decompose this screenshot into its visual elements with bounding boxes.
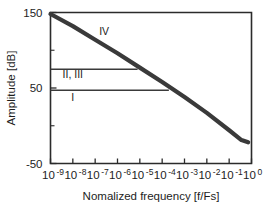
x-tick-label: 10-8 — [64, 167, 86, 181]
x-tick-label: 10-5 — [131, 167, 153, 181]
svg-text:10: 10 — [221, 169, 234, 181]
svg-text:-5: -5 — [146, 167, 154, 177]
x-tick-label: 10-6 — [109, 167, 131, 181]
svg-text:-3: -3 — [191, 167, 199, 177]
x-tick-label: 10-4 — [154, 167, 176, 181]
svg-text:-9: -9 — [57, 167, 65, 177]
region-label: II, III — [63, 68, 83, 80]
series-annotations: IVII, IIII — [63, 25, 109, 103]
svg-text:-1: -1 — [235, 167, 243, 177]
x-tick-label: 10-1 — [221, 167, 243, 181]
svg-text:-4: -4 — [168, 167, 176, 177]
y-axis-tick-labels: 15050-50 — [23, 7, 42, 170]
axis-ticks — [51, 13, 252, 164]
chart-plot-area: 15050-50 10-910-810-710-610-510-410-310-… — [0, 0, 278, 209]
y-tick-label: 50 — [30, 82, 43, 94]
svg-text:10: 10 — [176, 169, 189, 181]
svg-text:-2: -2 — [213, 167, 221, 177]
svg-text:10: 10 — [109, 169, 122, 181]
svg-text:10: 10 — [198, 169, 211, 181]
x-tick-label: 10-2 — [198, 167, 220, 181]
svg-text:10: 10 — [154, 169, 167, 181]
x-tick-label: 10-7 — [87, 167, 109, 181]
region-label: I — [71, 91, 74, 103]
x-tick-label: 10-9 — [42, 167, 64, 181]
svg-text:0: 0 — [258, 167, 263, 177]
plot-frame — [51, 13, 252, 164]
svg-text:10: 10 — [131, 169, 144, 181]
y-axis-title: Amplitude [dB] — [5, 51, 17, 126]
svg-text:-7: -7 — [101, 167, 109, 177]
x-axis-title: Nomalized frequency [f/Fs] — [83, 190, 220, 202]
region-label: IV — [99, 25, 109, 37]
chart-figure: 15050-50 10-910-810-710-610-510-410-310-… — [0, 0, 278, 209]
y-tick-label: 150 — [23, 7, 42, 19]
x-tick-label: 10-3 — [176, 167, 198, 181]
svg-text:10: 10 — [87, 169, 100, 181]
svg-text:-8: -8 — [79, 167, 87, 177]
y-tick-label: -50 — [26, 158, 43, 170]
svg-text:10: 10 — [64, 169, 77, 181]
svg-text:-6: -6 — [124, 167, 132, 177]
svg-text:10: 10 — [243, 169, 256, 181]
x-axis-tick-labels: 10-910-810-710-610-510-410-310-210-1100 — [42, 167, 262, 181]
x-tick-label: 100 — [243, 167, 262, 181]
axes — [51, 13, 252, 164]
svg-text:10: 10 — [42, 169, 55, 181]
